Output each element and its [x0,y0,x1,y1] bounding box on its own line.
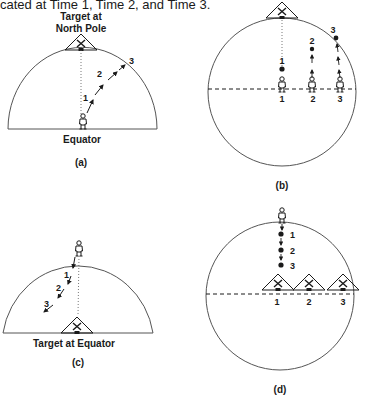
panel-d: 1 2 3 1 2 3 (d) [206,208,359,395]
target-label: Target at Equator [33,338,115,349]
observer-icon-2 [309,77,316,92]
trajectory-arrow-4 [119,65,125,70]
target-triangle-icon-3 [327,274,359,291]
target-dot-2 [310,47,314,51]
target-dot-1 [279,66,284,71]
target-label-line1: Target at [60,11,102,22]
panel-b: 1 2 3 1 2 3 (b) [208,2,356,191]
line-of-sight [78,256,79,316]
position-label-1: 1 [279,94,284,104]
dot-label-2: 2 [290,246,295,256]
dot-label-3: 3 [290,261,295,271]
arrow [338,57,339,65]
target-triangle-icon [61,317,93,334]
position-label-3: 3 [337,94,342,104]
dot-label-1: 1 [290,230,295,240]
observer-icon-3 [337,77,344,92]
observer-icon [80,114,87,129]
time-label-2: 2 [97,69,102,79]
globe-outline [208,18,356,166]
observer-icon [76,241,83,256]
position-label-1: 1 [274,297,279,307]
time-label-2: 2 [56,283,61,293]
caption-c: (c) [72,357,84,368]
dot-label-2: 2 [309,36,314,46]
hemisphere-outline [3,266,153,333]
target-label-line2: North Pole [56,23,107,34]
header-text: cated at Time 1, Time 2, and Time 3. [0,0,210,12]
caption-b: (b) [276,180,289,191]
target-triangle-icon-1 [262,274,294,291]
observer-icon-1 [279,77,286,92]
observer-icon [279,208,286,223]
panel-c: 1 2 3 Target at Equator (c) [3,241,153,368]
time-label-1: 1 [64,270,69,280]
globe-outline [206,222,354,370]
target-dot-3 [334,36,339,41]
position-label-2: 2 [306,297,311,307]
position-label-3: 3 [340,297,345,307]
trajectory-arrow-2 [95,85,103,95]
time-label-3: 3 [44,299,49,309]
target-dot-1 [278,231,283,236]
target-triangle-icon [266,2,298,19]
target-dot-2 [278,247,283,252]
time-label-3: 3 [129,56,134,66]
position-label-2: 2 [310,94,315,104]
trajectory-arrow-3 [108,72,117,80]
dot-label-1: 1 [279,56,284,66]
diagram-canvas: cated at Time 1, Time 2, and Time 3. Tar… [0,0,367,396]
time-label-1: 1 [83,93,88,103]
dot-label-3: 3 [330,25,335,35]
hemisphere-outline [8,47,157,129]
equator-label: Equator [63,134,101,145]
target-triangle-icon-2 [293,274,325,291]
caption-d: (d) [274,384,287,395]
panel-a: Target at North Pole 1 2 3 Equator (a) [8,11,157,168]
caption-a: (a) [75,157,87,168]
arrow [337,44,338,52]
target-dot-3 [278,262,283,267]
